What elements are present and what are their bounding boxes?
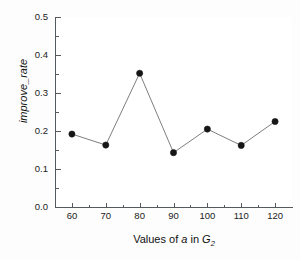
data-point-marker [170, 150, 176, 156]
data-series-layer [0, 0, 300, 260]
series-line-improve-rate [72, 73, 275, 152]
data-point-marker [238, 142, 244, 148]
data-point-marker [204, 126, 210, 132]
data-point-marker [103, 142, 109, 148]
data-point-marker [272, 118, 278, 124]
data-point-marker [69, 131, 75, 137]
chart-figure: 0.00.10.20.30.40.5 60708090100110120 imp… [0, 0, 300, 260]
data-point-marker [137, 70, 143, 76]
